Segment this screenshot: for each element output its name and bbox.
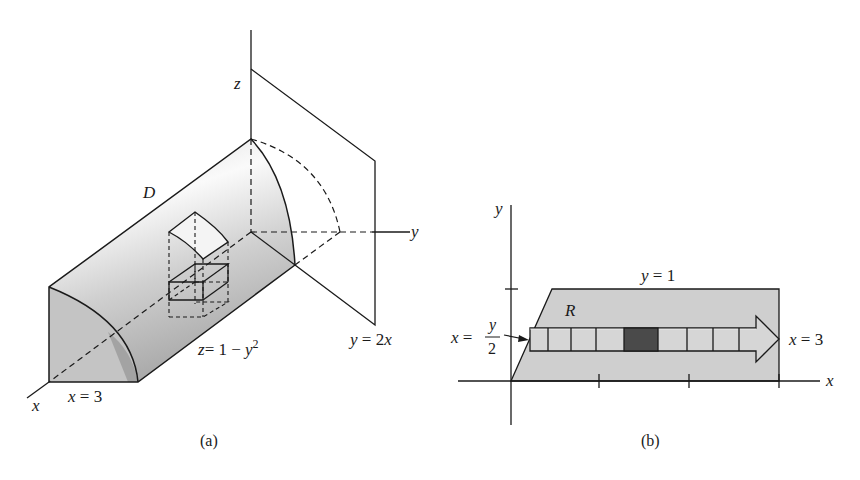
solid-label-D: D: [142, 183, 156, 202]
figure-canvas: z y x D z= 1 − y2 y = 2x x = 3 (a): [0, 0, 860, 480]
x-axis-label: x: [31, 396, 40, 415]
plane-base-hidden: [295, 232, 340, 265]
highlighted-cell: [624, 328, 658, 351]
region-label-R: R: [564, 301, 576, 320]
surface-equation: z= 1 − y2: [197, 337, 259, 359]
top-boundary-label: y = 1: [639, 266, 675, 285]
svg-text:2: 2: [488, 340, 496, 357]
svg-text:x =: x =: [450, 328, 472, 347]
right-boundary-label: x = 3: [788, 330, 823, 349]
bound-x-3-label: x = 3: [67, 387, 102, 406]
caption-b: (b): [641, 432, 660, 450]
x-axis-label: x: [825, 371, 834, 390]
figure-b: y x R y = 1 x = 3 x = y 2 (b): [450, 199, 834, 450]
figure-a: z y x D z= 1 − y2 y = 2x x = 3 (a): [27, 30, 419, 450]
y-axis-label: y: [409, 222, 419, 241]
plane-equation: y = 2x: [348, 330, 392, 349]
caption-a: (a): [200, 432, 218, 450]
z-axis-label: z: [233, 74, 241, 93]
svg-text:y: y: [487, 316, 497, 334]
y-axis-label: y: [493, 199, 503, 218]
left-boundary-label: x = y 2: [450, 316, 500, 357]
left-boundary-pointer: [504, 335, 529, 342]
